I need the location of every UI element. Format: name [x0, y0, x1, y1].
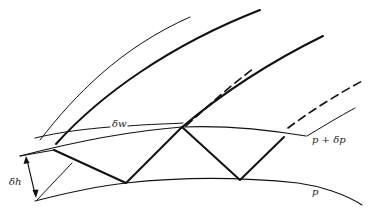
delta-h-arrowhead-bottom [33, 190, 39, 199]
p-label: p [312, 187, 318, 197]
wave-zigzag-left-link [20, 150, 54, 156]
diagram-canvas [0, 0, 379, 210]
p-plus-dp-curve [20, 127, 306, 156]
p-plus-dp-label: p + δp [312, 135, 346, 145]
delta-h-arrow-line [27, 160, 35, 194]
wave-zigzag [54, 127, 284, 183]
delta-h-arrowhead-top [24, 156, 30, 164]
dashed-line-2 [288, 80, 364, 128]
thin-line-right [307, 108, 355, 136]
thick-streamline-2 [181, 36, 323, 128]
delta-h-label: δh [9, 177, 21, 187]
lower-left-diagonal [37, 163, 72, 200]
delta-w-label: δw [112, 119, 127, 129]
delta-w-line-right [128, 123, 183, 126]
